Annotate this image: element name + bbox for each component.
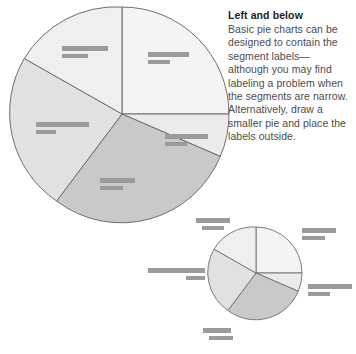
caption-heading: Left and below bbox=[228, 8, 350, 22]
label-bar-line-2 bbox=[302, 236, 325, 240]
label-bar-line-1 bbox=[203, 328, 231, 333]
illustration-canvas: Left and below Basic pie charts can be d… bbox=[0, 0, 356, 354]
label-bar-line-1 bbox=[148, 268, 205, 273]
label-bar-line-1 bbox=[196, 218, 230, 223]
caption-block: Left and below Basic pie charts can be d… bbox=[228, 8, 350, 144]
label-bar-line-2 bbox=[209, 336, 233, 340]
small-pie-slices bbox=[208, 227, 302, 320]
label-bar-line-2 bbox=[308, 292, 330, 296]
small-pie-label-top-left bbox=[196, 218, 230, 232]
caption-body: Basic pie charts can be designed to cont… bbox=[228, 23, 350, 144]
small-slice-top-right bbox=[256, 227, 302, 273]
label-bar-line-2 bbox=[186, 276, 205, 280]
small-pie-label-bottom bbox=[203, 328, 233, 342]
label-bar-line-2 bbox=[202, 226, 224, 230]
small-pie-label-left bbox=[148, 268, 205, 282]
small-pie-label-right bbox=[308, 284, 352, 298]
label-bar-line-1 bbox=[308, 284, 352, 289]
label-bar-line-1 bbox=[302, 228, 336, 233]
small-pie-label-top-right bbox=[302, 228, 336, 242]
